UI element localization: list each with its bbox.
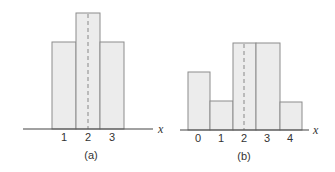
caption-b: (b)	[237, 150, 250, 162]
bar-a-3	[100, 42, 124, 129]
tick-b-3: 3	[264, 132, 270, 144]
tick-b-1: 1	[218, 132, 224, 144]
bar-a-1	[52, 42, 76, 129]
tick-a-1: 1	[61, 131, 67, 143]
tick-a-3: 3	[109, 131, 115, 143]
x-axis-label-a: x	[157, 122, 164, 136]
tick-b-0: 0	[195, 132, 201, 144]
chart-b: x 0 1 2 3 4 (b)	[180, 43, 319, 162]
tick-b-4: 4	[287, 132, 293, 144]
x-axis-label-b: x	[312, 123, 319, 137]
figure: x 1 2 3 (a) x 0 1 2 3 4 (b)	[0, 0, 335, 172]
bar-b-1	[210, 101, 233, 130]
tick-a-2: 2	[85, 131, 91, 143]
bar-b-3	[256, 43, 280, 130]
chart-a: x 1 2 3 (a)	[23, 13, 164, 161]
caption-a: (a)	[84, 149, 97, 161]
tick-b-2: 2	[241, 132, 247, 144]
bar-b-4	[280, 102, 302, 130]
bar-b-0	[188, 72, 210, 130]
